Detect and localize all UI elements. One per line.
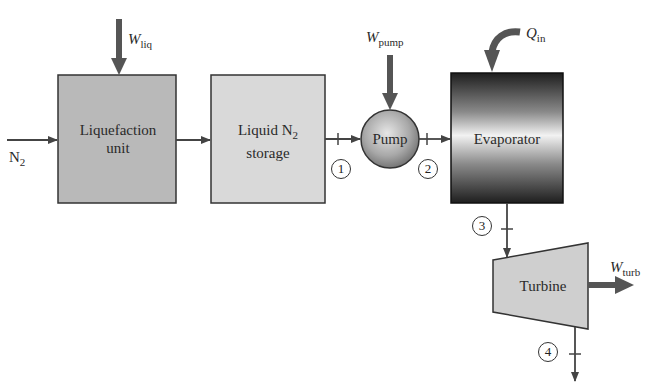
n2-inlet-label: N2 (9, 148, 25, 171)
q-in-label: Qin (526, 24, 545, 47)
w-liq-main: W (128, 31, 141, 47)
w-pump-label: Wpump (366, 28, 404, 51)
w-pump-main: W (366, 29, 379, 45)
n2-main: N (9, 149, 20, 165)
w-turb-label: Wturb (610, 258, 640, 281)
w-pump-sub: pump (379, 36, 404, 48)
w-turb-sub: turb (623, 266, 641, 278)
q-in-main: Q (526, 25, 537, 41)
storage-line2: storage (211, 144, 325, 162)
state-2-marker: 2 (418, 159, 438, 179)
evaporator-label: Evaporator (451, 130, 563, 148)
q-in-sub: in (537, 32, 546, 44)
w-liq-sub: liq (141, 38, 153, 50)
storage-line1-sub: 2 (293, 129, 299, 141)
pump-label: Pump (361, 130, 419, 148)
storage-line1: Liquid N2 (211, 121, 325, 144)
liquefaction-unit-label: Liquefaction unit (60, 121, 176, 157)
liquefaction-line2: unit (60, 139, 176, 157)
w-liq-label: Wliq (128, 30, 152, 53)
turbine-label: Turbine (500, 277, 586, 295)
storage-label: Liquid N2 storage (211, 121, 325, 162)
state-4-marker: 4 (538, 342, 558, 362)
storage-line1-main: Liquid N (238, 122, 293, 138)
state-3-marker: 3 (472, 216, 492, 236)
n2-sub: 2 (20, 156, 26, 168)
liquefaction-line1: Liquefaction (60, 121, 176, 139)
w-turb-main: W (610, 259, 623, 275)
state-1-marker: 1 (331, 159, 351, 179)
diagram-canvas: Liquefaction unit Liquid N2 storage Pump… (0, 0, 652, 383)
flow-lines (0, 0, 652, 383)
